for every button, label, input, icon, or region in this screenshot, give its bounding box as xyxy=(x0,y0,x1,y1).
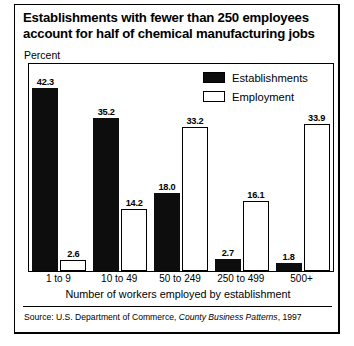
bar-rect xyxy=(182,127,208,271)
bar-value-label: 18.0 xyxy=(147,182,187,192)
bar-group: 42.32.6 xyxy=(29,64,90,271)
plot-area: Establishments Employment 42.32.635.214.… xyxy=(28,63,334,272)
bar-employment: 14.2 xyxy=(121,64,147,271)
bar-value-label: 42.3 xyxy=(25,77,65,87)
source-divider xyxy=(23,306,332,307)
bar-rect xyxy=(304,124,330,271)
bar-value-label: 16.1 xyxy=(236,190,276,200)
bar-value-label: 1.8 xyxy=(269,252,309,262)
x-axis-label-250-to-499: 250 to 499 xyxy=(210,273,271,284)
bar-value-label: 2.7 xyxy=(208,248,248,258)
bar-group: 18.033.2 xyxy=(151,64,212,271)
bar-employment: 33.9 xyxy=(304,64,330,271)
x-axis-category-labels: 1 to 910 to 4950 to 249250 to 499500+ xyxy=(28,273,334,287)
x-axis-title: Number of workers employed by establishm… xyxy=(15,288,341,300)
bar-establishments: 18.0 xyxy=(154,64,180,271)
bar-value-label: 35.2 xyxy=(86,107,126,117)
bar-rect xyxy=(121,209,147,271)
source-prefix: Source: U.S. Department of Commerce, xyxy=(24,312,176,322)
bar-establishments: 1.8 xyxy=(276,64,302,271)
page-title: Establishments with fewer than 250 emplo… xyxy=(23,10,333,41)
bar-value-label: 33.2 xyxy=(175,116,215,126)
x-axis-label-10-to-49: 10 to 49 xyxy=(89,273,150,284)
source-publication: County Business Patterns xyxy=(179,312,278,322)
x-axis-label-500plus: 500+ xyxy=(271,273,332,284)
bar-value-label: 33.9 xyxy=(297,113,337,123)
bar-group: 2.716.1 xyxy=(211,64,272,271)
bar-rect xyxy=(243,201,269,271)
bar-establishments: 2.7 xyxy=(215,64,241,271)
bar-group: 1.833.9 xyxy=(272,64,333,271)
bar-value-label: 14.2 xyxy=(114,198,154,208)
bar-employment: 2.6 xyxy=(60,64,86,271)
bar-employment: 16.1 xyxy=(243,64,269,271)
bar-employment: 33.2 xyxy=(182,64,208,271)
y-axis-unit-label: Percent xyxy=(24,49,60,61)
bar-establishments: 35.2 xyxy=(93,64,119,271)
chart-figure: Establishments with fewer than 250 emplo… xyxy=(14,4,340,334)
bar-value-label: 2.6 xyxy=(53,249,93,259)
bar-group: 35.214.2 xyxy=(90,64,151,271)
x-axis-label-50-to-249: 50 to 249 xyxy=(150,273,211,284)
bar-rect xyxy=(154,193,180,271)
source-year: , 1997 xyxy=(278,312,302,322)
x-axis-label-1-to-9: 1 to 9 xyxy=(28,273,89,284)
bar-groups: 42.32.635.214.218.033.22.716.11.833.9 xyxy=(29,64,333,271)
bar-rect xyxy=(276,263,302,271)
bar-rect xyxy=(32,88,58,271)
bar-rect xyxy=(215,259,241,271)
source-note: Source: U.S. Department of Commerce, Cou… xyxy=(24,312,302,322)
bar-establishments: 42.3 xyxy=(32,64,58,271)
bar-rect xyxy=(60,260,86,271)
bar-rect xyxy=(93,118,119,271)
